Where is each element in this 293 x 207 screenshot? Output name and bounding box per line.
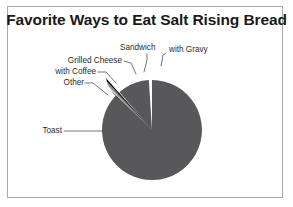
pie-label-toast: Toast: [14, 126, 62, 136]
chart-figure: Favorite Ways to Eat Salt Rising Bread T…: [0, 0, 293, 207]
pie-chart: [0, 0, 293, 207]
pie-label-grilled-cheese: Grilled Cheese: [48, 56, 122, 66]
leader-line-sandwich: [144, 54, 147, 72]
leader-line-grilled-cheese: [124, 61, 136, 74]
pie-label-sandwich: Sandwich: [120, 43, 174, 53]
leader-line-with-gravy: [161, 53, 166, 66]
pie-label-with-gravy: with Gravy: [169, 45, 227, 55]
pie-label-other: Other: [36, 78, 84, 88]
leader-line-other: [85, 83, 108, 95]
pie-label-with-coffee: with Coffee: [30, 67, 96, 77]
